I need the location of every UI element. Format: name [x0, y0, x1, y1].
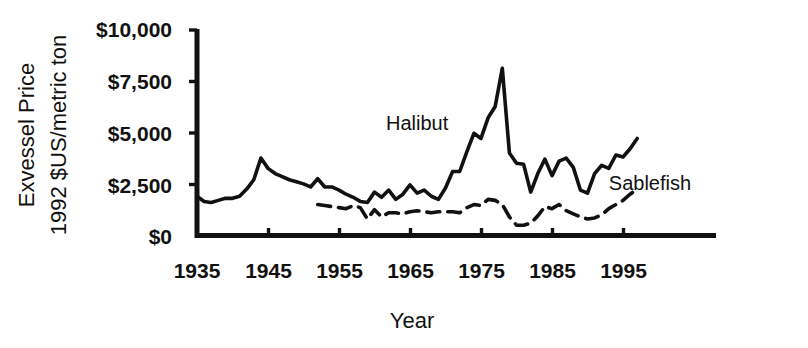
x-tick-label-1975: 1975 — [458, 259, 505, 282]
x-tick-label-1955: 1955 — [316, 259, 363, 282]
y-axis-title-line1: Exvessel Price — [14, 63, 39, 207]
x-axis-title: Year — [390, 308, 434, 333]
x-tick-label-1935: 1935 — [174, 259, 221, 282]
y-tick-label-5000: $5,000 — [108, 122, 172, 145]
x-tick-label-1965: 1965 — [387, 259, 434, 282]
chart-svg: Exvessel Price 1992 $US/metric ton $10,0… — [0, 0, 808, 348]
x-tick-labels: 1935 1945 1955 1965 1975 1985 1995 — [174, 259, 648, 282]
x-tick-label-1945: 1945 — [245, 259, 292, 282]
y-tick-label-7500: $7,500 — [108, 70, 172, 93]
chart-figure: Exvessel Price 1992 $US/metric ton $10,0… — [0, 0, 808, 348]
x-tick-label-1985: 1985 — [529, 259, 576, 282]
series-line-halibut — [197, 68, 637, 202]
axis-lines — [197, 29, 716, 236]
y-tick-label-0: $0 — [149, 225, 172, 248]
y-axis-title-line2: 1992 $US/metric ton — [46, 35, 71, 236]
series-annotation-sablefish: Sablefish — [609, 172, 691, 194]
y-tick-label-10000: $10,000 — [96, 18, 172, 41]
y-tick-label-2500: $2,500 — [108, 174, 172, 197]
y-axis-title: Exvessel Price 1992 $US/metric ton — [14, 35, 71, 236]
x-tick-label-1995: 1995 — [600, 259, 647, 282]
series-line-sablefish — [318, 189, 638, 225]
y-tick-labels: $10,000 $7,500 $5,000 $2,500 $0 — [96, 18, 172, 248]
series-annotation-halibut: Halibut — [386, 112, 449, 134]
